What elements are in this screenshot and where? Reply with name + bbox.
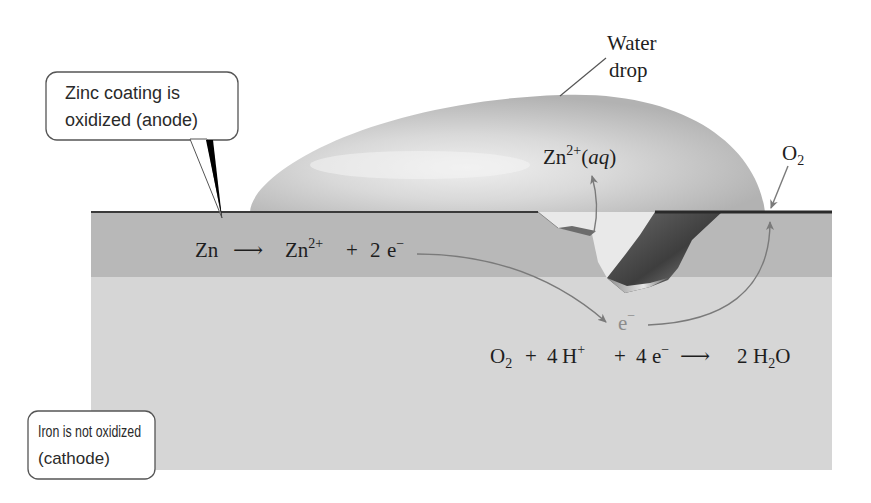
anode-callout-line2: oxidized (anode) [65,110,198,130]
zinc-ion-symbol: Zn [543,145,567,169]
electron-symbol: e [618,311,627,335]
cathode-e-charge: − [661,342,669,357]
anode-plus: + [346,238,358,262]
iron-layer [91,277,832,470]
anode-callout: Zinc coating is oxidized (anode) [46,72,238,218]
anode-callout-line1: Zinc coating is [65,83,180,103]
cathode-e: e [652,344,661,368]
cathode-arrow: ⟶ [680,344,710,368]
water-drop [250,95,765,212]
water-drop-label-line1: Water [607,31,657,55]
anode-electron-charge: − [396,236,404,251]
oxygen-symbol: O [782,141,797,165]
oxygen-subscript: 2 [797,153,804,168]
cathode-water-coeff: 2 [737,344,748,368]
cathode-h-charge: + [577,342,585,357]
cathode-water-o: O [775,344,790,368]
cathode-h: H [562,344,577,368]
anode-product-ion-charge: 2+ [308,236,323,251]
cathode-o2: O [490,344,505,368]
cathode-e-coeff: 4 [636,344,647,368]
zinc-ion-paren-close: ) [609,145,616,169]
cathode-water-sub: 2 [768,356,775,371]
oxygen-label: O2 [782,141,804,168]
cathode-h-coeff: 4 [547,344,558,368]
cathode-callout-line2: (cathode) [38,449,110,468]
cathode-water-h: H [753,344,768,368]
anode-electron: e [387,238,396,262]
water-drop-highlight [310,151,530,179]
oxygen-arrow [771,166,788,208]
cathode-o2-sub: 2 [505,356,512,371]
cathode-callout: Iron is not oxidized (cathode) [28,411,155,479]
zinc-ion-paren-open: ( [581,145,588,169]
electron-charge: − [627,308,635,323]
anode-reactant: Zn [195,238,219,262]
cathode-callout-line1: Iron is not oxidized [38,422,141,441]
galvanized-iron-corrosion-diagram: Zinc coating is oxidized (anode) Iron is… [0,0,871,503]
water-drop-leader-line [560,58,606,96]
zinc-ion-charge: 2+ [566,143,581,158]
water-drop-label-line2: drop [609,58,648,82]
cathode-plus-2: + [614,344,626,368]
zinc-ion-state: aq [588,145,610,169]
anode-product-ion: Zn [285,238,309,262]
anode-electron-coeff: 2 [370,238,381,262]
cathode-plus-1: + [525,344,537,368]
anode-arrow: ⟶ [233,238,263,262]
